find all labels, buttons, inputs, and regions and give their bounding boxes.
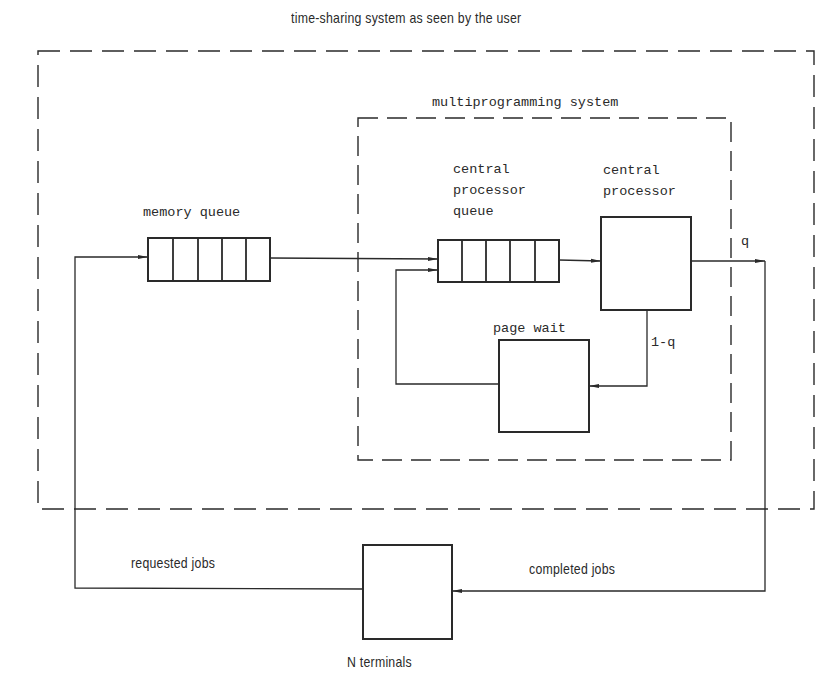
cpu-box [601,217,691,310]
memory-queue-label: memory queue [143,203,240,223]
cpu-queue-label-line3: queue [453,202,494,222]
memory-queue [148,238,270,281]
terminals-box [363,545,452,639]
clipped-caption-strip [0,684,838,692]
cpu-queue [438,240,559,282]
multiprogramming-boundary [358,118,731,460]
edge-page-wait-to-cpu-queue [396,270,499,384]
multiprogramming-label: multiprogramming system [432,93,618,113]
edge-cpu-to-page-wait [589,310,647,386]
q-label: q [741,232,749,252]
edge-cpu-queue-to-cpu [559,260,601,261]
requested-jobs-label: requested jobs [131,553,215,573]
page-wait-box [499,340,589,432]
cpu-queue-label-line1: central [453,160,510,180]
cpu-label-line1: central [603,161,660,181]
one-minus-q-label: 1-q [651,333,675,353]
edge-memory-to-cpu-queue [270,258,438,259]
terminals-label: N terminals [347,652,412,672]
diagram-title: time-sharing system as seen by the user [291,8,521,28]
edge-requested-jobs [75,257,363,589]
page-wait-label: page wait [493,319,566,339]
cpu-queue-label-line2: processor [453,181,526,201]
queueing-network-diagram [0,0,838,692]
cpu-label-line2: processor [603,182,676,202]
completed-jobs-label: completed jobs [529,559,615,579]
